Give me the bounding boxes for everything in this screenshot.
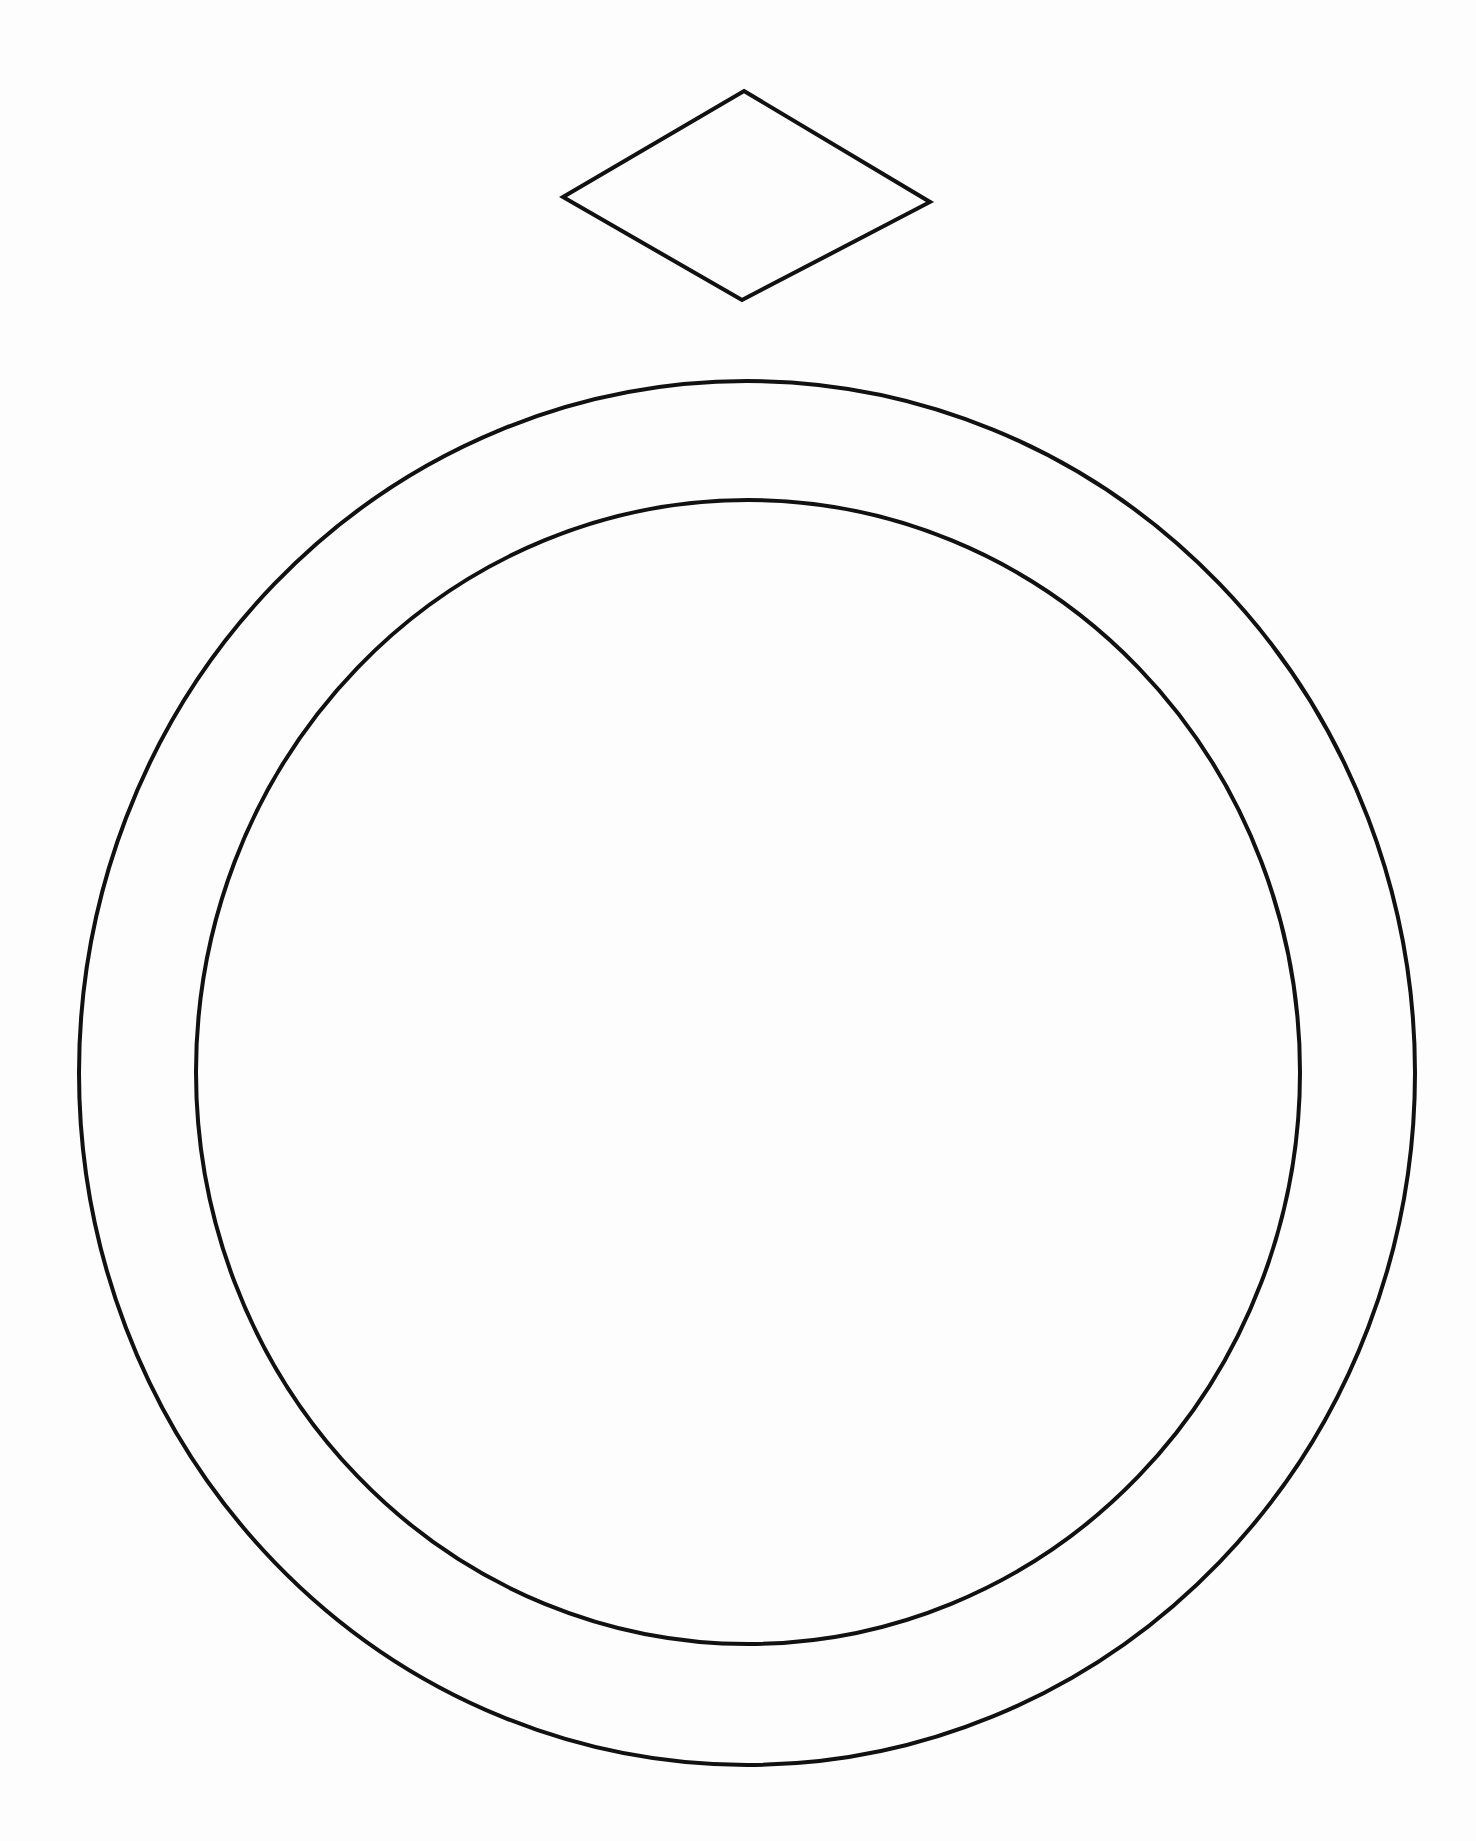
paper-background (0, 0, 1476, 1841)
ring-drawing (0, 0, 1476, 1841)
